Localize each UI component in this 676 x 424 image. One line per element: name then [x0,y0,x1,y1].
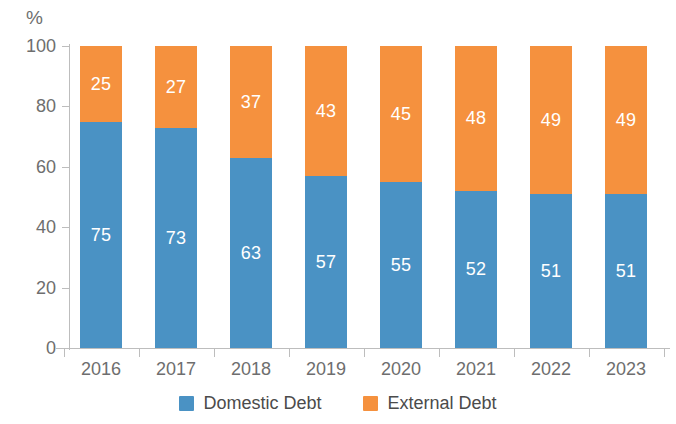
x-axis-tick-label: 2023 [591,360,661,378]
chart-legend: Domestic DebtExternal Debt [0,394,676,412]
legend-label: External Debt [387,394,496,412]
bar-segment[interactable]: 49 [530,46,572,194]
legend-item[interactable]: Domestic Debt [179,394,321,412]
x-axis-tick [289,348,290,357]
bar-segment[interactable]: 51 [530,194,572,348]
bar-segment[interactable]: 51 [605,194,647,348]
x-axis-tick-label: 2020 [366,360,436,378]
x-axis-tick-label: 2017 [141,360,211,378]
bar-value-label: 25 [91,75,112,93]
x-axis-tick [589,348,590,357]
bar-value-label: 43 [316,102,337,120]
legend-label: Domestic Debt [203,394,321,412]
bar-segment[interactable]: 37 [230,46,272,158]
bar-group[interactable]: 6337 [230,46,272,348]
bar-value-label: 63 [241,244,262,262]
bar-value-label: 51 [541,262,562,280]
bar-group[interactable]: 5149 [530,46,572,348]
bar-value-label: 48 [466,109,487,127]
legend-swatch-icon [363,396,378,411]
bar-value-label: 55 [391,256,412,274]
y-axis-unit-label: % [26,8,43,27]
bar-group[interactable]: 5743 [305,46,347,348]
y-axis-tick-label: 0 [8,339,56,357]
bar-group[interactable]: 7327 [155,46,197,348]
y-axis-tick-label: 40 [8,218,56,236]
x-axis-tick [664,348,665,357]
bar-value-label: 57 [316,253,337,271]
stacked-bar-chart: % 020406080100 7525732763375743554552485… [0,0,676,424]
bar-value-label: 27 [166,78,187,96]
bar-segment[interactable]: 49 [605,46,647,194]
y-axis-tick-label: 100 [8,37,56,55]
bar-group[interactable]: 5248 [455,46,497,348]
bar-value-label: 49 [616,111,637,129]
bar-value-label: 73 [166,229,187,247]
bar-value-label: 49 [541,111,562,129]
y-axis-tick [62,46,70,47]
x-axis-tick-label: 2016 [66,360,136,378]
y-axis-tick-label: 60 [8,158,56,176]
bar-group[interactable]: 5545 [380,46,422,348]
x-axis-tick [139,348,140,357]
y-axis-tick [62,167,70,168]
y-axis-tick [62,106,70,107]
x-axis-tick [439,348,440,357]
bar-segment[interactable]: 52 [455,191,497,348]
bar-value-label: 51 [616,262,637,280]
plot-area: 75257327633757435545524851495149 [70,46,662,348]
x-axis-tick [364,348,365,357]
x-axis-tick [64,348,65,357]
bar-segment[interactable]: 43 [305,46,347,176]
bar-value-label: 75 [91,226,112,244]
y-axis-tick-label: 20 [8,279,56,297]
x-axis-tick-label: 2021 [441,360,511,378]
bar-group[interactable]: 5149 [605,46,647,348]
x-axis-tick-label: 2018 [216,360,286,378]
y-axis-tick [62,288,70,289]
bar-segment[interactable]: 48 [455,46,497,191]
bar-segment[interactable]: 73 [155,128,197,348]
bar-segment[interactable]: 75 [80,122,122,349]
bar-segment[interactable]: 57 [305,176,347,348]
bar-segment[interactable]: 27 [155,46,197,128]
bar-group[interactable]: 7525 [80,46,122,348]
x-axis-tick [214,348,215,357]
bar-value-label: 52 [466,260,487,278]
bar-value-label: 45 [391,105,412,123]
x-axis-tick [514,348,515,357]
y-axis-tick-label: 80 [8,97,56,115]
x-axis-tick-label: 2019 [291,360,361,378]
x-axis-tick-label: 2022 [516,360,586,378]
bar-segment[interactable]: 25 [80,46,122,122]
bar-segment[interactable]: 63 [230,158,272,348]
legend-swatch-icon [179,396,194,411]
legend-item[interactable]: External Debt [363,394,496,412]
bar-segment[interactable]: 55 [380,182,422,348]
bar-value-label: 37 [241,93,262,111]
x-axis-line [56,348,670,349]
bar-segment[interactable]: 45 [380,46,422,182]
y-axis-tick [62,227,70,228]
